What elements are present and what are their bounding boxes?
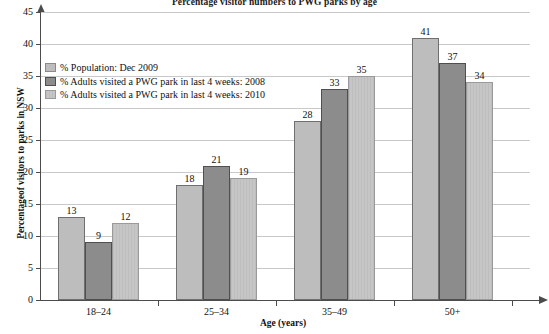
bar-value-label: 21 xyxy=(212,154,222,165)
bar-group: 182119 xyxy=(176,12,257,300)
y-axis-tick xyxy=(36,44,41,45)
bar[interactable]: 37 xyxy=(439,63,466,300)
bar[interactable]: 41 xyxy=(412,38,439,300)
chart-title: Percentage visitor numbers to PWG parks … xyxy=(0,0,549,7)
bar-value-label: 28 xyxy=(303,109,313,120)
bar-value-label: 35 xyxy=(357,64,367,75)
legend-item[interactable]: % Adults visited a PWG park in last 4 we… xyxy=(45,75,265,89)
chart-legend: % Population: Dec 2009% Adults visited a… xyxy=(45,61,265,102)
bar-value-label: 41 xyxy=(421,26,431,37)
bar[interactable]: 18 xyxy=(176,185,203,300)
bar[interactable]: 35 xyxy=(348,76,375,300)
legend-item-label: % Adults visited a PWG park in last 4 we… xyxy=(60,89,265,100)
y-axis-tick xyxy=(36,268,41,269)
bar-value-label: 18 xyxy=(185,173,195,184)
bar-value-label: 37 xyxy=(448,51,458,62)
x-axis-category-label: 18–24 xyxy=(38,306,159,317)
y-axis-tick-label: 30 xyxy=(23,102,33,113)
bar[interactable]: 9 xyxy=(85,242,112,300)
bar-group: 13912 xyxy=(58,12,139,300)
y-axis-tick xyxy=(36,204,41,205)
y-axis-tick-label: 5 xyxy=(28,262,33,273)
y-axis-tick-label: 25 xyxy=(23,134,33,145)
plot-area: 0510152025303540451391218–2418211925–342… xyxy=(40,12,530,300)
y-axis-tick xyxy=(36,140,41,141)
y-axis-tick-label: 20 xyxy=(23,166,33,177)
bar[interactable]: 21 xyxy=(203,166,230,300)
y-axis-tick xyxy=(36,300,41,301)
x-axis-tick xyxy=(512,300,513,306)
bar[interactable]: 34 xyxy=(466,82,493,300)
chart-container: Percentage visitor numbers to PWG parks … xyxy=(0,0,549,334)
y-axis-line xyxy=(40,12,41,300)
y-axis-tick-label: 15 xyxy=(23,198,33,209)
y-axis-tick xyxy=(36,172,41,173)
legend-item-label: % Population: Dec 2009 xyxy=(60,62,158,73)
bar-value-label: 13 xyxy=(67,205,77,216)
x-axis-line xyxy=(40,300,540,301)
legend-swatch-icon xyxy=(45,63,56,72)
bar-value-label: 9 xyxy=(96,230,101,241)
y-axis-tick-label: 0 xyxy=(28,294,33,305)
bar[interactable]: 33 xyxy=(321,89,348,300)
y-axis-tick xyxy=(36,108,41,109)
bar[interactable]: 13 xyxy=(58,217,85,300)
bar-group: 413734 xyxy=(412,12,493,300)
y-axis-tick xyxy=(36,76,41,77)
x-axis-category-label: 35–49 xyxy=(274,306,395,317)
x-axis-title: Age (years) xyxy=(36,318,530,328)
legend-item-label: % Adults visited a PWG park in last 4 we… xyxy=(60,76,265,87)
bar[interactable]: 28 xyxy=(294,121,321,300)
bar[interactable]: 19 xyxy=(230,178,257,300)
y-axis-tick-label: 35 xyxy=(23,70,33,81)
y-axis-tick-label: 45 xyxy=(23,6,33,17)
x-axis-category-label: 25–34 xyxy=(156,306,277,317)
x-axis-arrow-icon xyxy=(539,296,548,304)
x-axis-category-label: 50+ xyxy=(392,306,513,317)
legend-item[interactable]: % Adults visited a PWG park in last 4 we… xyxy=(45,88,265,102)
y-axis-tick-label: 40 xyxy=(23,38,33,49)
y-axis-tick-label: 10 xyxy=(23,230,33,241)
bar-group: 283335 xyxy=(294,12,375,300)
y-axis-tick xyxy=(36,236,41,237)
legend-item[interactable]: % Population: Dec 2009 xyxy=(45,61,265,75)
bar-value-label: 19 xyxy=(239,166,249,177)
bar[interactable]: 12 xyxy=(112,223,139,300)
legend-swatch-icon xyxy=(45,77,56,86)
bar-value-label: 12 xyxy=(121,211,131,222)
bar-value-label: 34 xyxy=(475,70,485,81)
y-axis-tick xyxy=(36,12,41,13)
bar-value-label: 33 xyxy=(330,77,340,88)
legend-swatch-icon xyxy=(45,90,56,99)
